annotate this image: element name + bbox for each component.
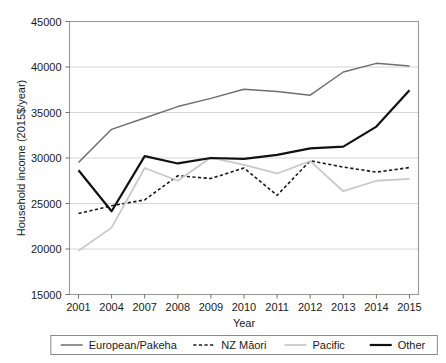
y-tick-label: 30000 xyxy=(31,152,62,164)
y-tick-label: 35000 xyxy=(31,107,62,119)
y-tick-label: 25000 xyxy=(31,198,62,210)
x-axis-group: 2001200420072008200920102011201220132014… xyxy=(66,295,421,313)
x-tick-label: 2010 xyxy=(232,301,256,313)
y-axis-title: Household income (2015$/year) xyxy=(15,80,27,237)
legend-label-3: Other xyxy=(398,339,426,351)
series-line-3 xyxy=(79,90,410,211)
x-tick-label: 2001 xyxy=(66,301,90,313)
legend-label-2: Pacific xyxy=(312,339,345,351)
x-tick-label: 2004 xyxy=(99,301,123,313)
y-axis-group: 15000200002500030000350004000045000 xyxy=(31,16,70,301)
series-line-1 xyxy=(79,161,410,214)
x-axis-title: Year xyxy=(233,317,256,329)
legend-label-0: European/Pakeha xyxy=(89,339,178,351)
legend: European/PakehaNZ MāoriPacificOther xyxy=(51,336,438,355)
x-tick-label: 2012 xyxy=(298,301,322,313)
y-tick-label: 20000 xyxy=(31,243,62,255)
line-chart: 15000200002500030000350004000045000 2001… xyxy=(0,0,446,363)
x-tick-label: 2011 xyxy=(265,301,289,313)
x-tick-label: 2009 xyxy=(199,301,223,313)
chart-container: 15000200002500030000350004000045000 2001… xyxy=(0,0,446,363)
x-tick-label: 2013 xyxy=(331,301,355,313)
x-tick-label: 2014 xyxy=(364,301,388,313)
series-line-2 xyxy=(79,158,410,251)
y-tick-label: 15000 xyxy=(31,289,62,301)
x-tick-label: 2015 xyxy=(397,301,421,313)
legend-label-1: NZ Māori xyxy=(221,339,266,351)
series-group xyxy=(79,63,410,250)
y-tick-label: 45000 xyxy=(31,16,62,28)
x-tick-label: 2008 xyxy=(166,301,190,313)
y-tick-label: 40000 xyxy=(31,61,62,73)
x-tick-label: 2007 xyxy=(132,301,156,313)
